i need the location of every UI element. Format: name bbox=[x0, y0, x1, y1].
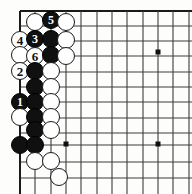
white-stone bbox=[57, 47, 75, 65]
move-number-label: 4 bbox=[17, 33, 24, 46]
move-number-label: 2 bbox=[17, 64, 24, 77]
go-board-diagram: 543621 bbox=[0, 0, 192, 194]
move-number-label: 1 bbox=[17, 96, 23, 108]
white-stone bbox=[57, 13, 75, 31]
move-number-label: 3 bbox=[32, 33, 38, 45]
move-number-label: 6 bbox=[32, 49, 39, 62]
stone-layer: 543621 bbox=[0, 0, 192, 194]
white-stone bbox=[42, 121, 60, 139]
white-stone bbox=[50, 168, 68, 186]
move-number-label: 5 bbox=[48, 14, 54, 26]
